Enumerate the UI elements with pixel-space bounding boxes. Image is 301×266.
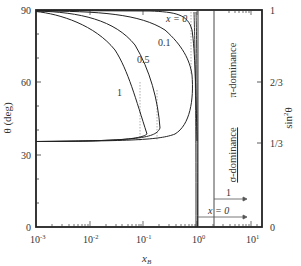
y-right-tick-2-3: 2/3 (270, 77, 283, 88)
svg-text:101: 101 (246, 233, 259, 245)
curve-0.1 (36, 11, 192, 142)
curve-0.5 (36, 11, 160, 142)
y-axis-right-label: sin2θ (282, 107, 294, 129)
y-tick-0: 0 (26, 222, 31, 233)
chart: 90 60 30 0 1 2/3 1/3 0 10-3 10-2 10-1 10… (0, 0, 301, 266)
pi-dominance-label: π-dominance (227, 42, 238, 97)
y-right-tick-1: 1 (270, 5, 275, 16)
y-axis-label: θ (deg) (1, 102, 14, 134)
y-tick-60: 60 (21, 77, 31, 88)
svg-text:100: 100 (192, 233, 205, 245)
x-tick-labels: 10-3 10-2 10-1 100 101 (30, 233, 259, 245)
sigma-dominance-label: σ-dominance (227, 127, 238, 183)
y-right-tick-0: 0 (270, 222, 275, 233)
curve-1 (36, 12, 147, 142)
svg-text:10-3: 10-3 (30, 233, 45, 245)
dotted-guides (140, 12, 191, 141)
arrow-label-1: 1 (226, 187, 231, 198)
arrow-label-x0: x = 0 (207, 205, 229, 216)
label-0.5: 0.5 (137, 54, 150, 65)
svg-text:10-1: 10-1 (136, 233, 151, 245)
y-right-tick-1-3: 1/3 (270, 138, 283, 149)
label-x0: x = 0 (165, 13, 187, 24)
curves (36, 11, 198, 228)
curve-x0 (36, 11, 197, 142)
x-axis-label: xB (141, 252, 152, 266)
label-0.1: 0.1 (158, 37, 171, 48)
svg-text:10-2: 10-2 (83, 233, 98, 245)
y-tick-30: 30 (21, 150, 31, 161)
y-tick-90: 90 (21, 5, 31, 16)
label-1: 1 (117, 87, 122, 98)
